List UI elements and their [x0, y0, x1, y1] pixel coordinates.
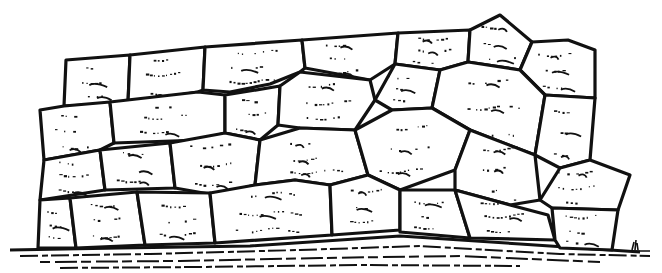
stone-block: [64, 55, 130, 106]
masonry-wall-illustration: Polygonal masonry wall (line drawing): [0, 0, 662, 273]
stone-block: [210, 180, 332, 243]
stone-block: [278, 72, 375, 130]
stone-block: [225, 86, 280, 140]
stone-block: [70, 192, 145, 248]
stone-block: [330, 175, 400, 235]
wall-drawing: [0, 0, 662, 273]
stone-block: [100, 143, 175, 190]
stone-block: [40, 150, 105, 200]
stone-block: [552, 208, 618, 250]
stone-block: [535, 95, 595, 168]
stone-block: [255, 128, 368, 185]
stone-block: [137, 192, 215, 245]
